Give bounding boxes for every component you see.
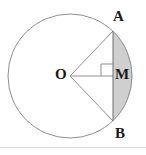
point-label-b: B — [115, 126, 125, 141]
radius-OB-line — [70, 76, 113, 121]
geometry-figure: A B M O — [0, 0, 146, 155]
point-label-a: A — [113, 9, 124, 24]
bottom-divider — [0, 147, 146, 148]
radius-OA-line — [70, 31, 113, 76]
point-label-m: M — [115, 67, 129, 82]
point-label-o: O — [55, 67, 67, 82]
right-angle-icon — [101, 64, 113, 76]
